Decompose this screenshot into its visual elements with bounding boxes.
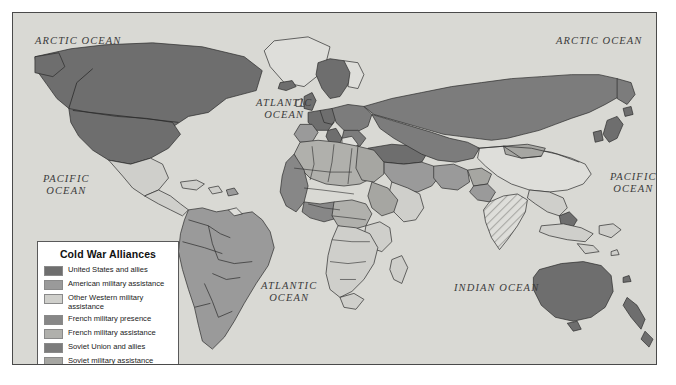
legend-item-french-military-presence: French military presence: [44, 314, 172, 325]
legend-label-french-military-assistance: French military assistance: [68, 328, 172, 337]
legend-item-american-military-assistance: American military assistance: [44, 279, 172, 290]
cold-war-alliances-map-page: ARCTIC OCEAN ARCTIC OCEAN ATLANTIC OCEAN…: [0, 0, 676, 385]
legend-label-french-military-presence: French military presence: [68, 314, 172, 323]
legend-item-soviet-union-and-allies: Soviet Union and allies: [44, 342, 172, 353]
legend-swatch-soviet-union-and-allies: [44, 343, 63, 353]
legend-item-other-western-military-assistance: Other Western military assistance: [44, 293, 172, 311]
legend-title: Cold War Alliances: [44, 248, 172, 260]
legend-label-united-states-and-allies: United States and allies: [68, 265, 172, 274]
legend-item-french-military-assistance: French military assistance: [44, 328, 172, 339]
map-frame: ARCTIC OCEAN ARCTIC OCEAN ATLANTIC OCEAN…: [12, 12, 657, 365]
legend-item-united-states-and-allies: United States and allies: [44, 265, 172, 276]
legend-item-soviet-military-assistance: Soviet military assistance: [44, 356, 172, 365]
legend-label-other-western-military-assistance: Other Western military assistance: [68, 293, 172, 311]
legend-swatch-united-states-and-allies: [44, 266, 63, 276]
legend-label-soviet-union-and-allies: Soviet Union and allies: [68, 342, 172, 351]
legend-swatch-french-military-presence: [44, 315, 63, 325]
legend-swatch-american-military-assistance: [44, 280, 63, 290]
map-legend: Cold War Alliances United States and all…: [37, 241, 179, 365]
legend-swatch-soviet-military-assistance: [44, 357, 63, 365]
legend-label-soviet-military-assistance: Soviet military assistance: [68, 356, 172, 365]
legend-swatch-french-military-assistance: [44, 329, 63, 339]
legend-swatch-other-western-military-assistance: [44, 294, 63, 304]
legend-label-american-military-assistance: American military assistance: [68, 279, 172, 288]
